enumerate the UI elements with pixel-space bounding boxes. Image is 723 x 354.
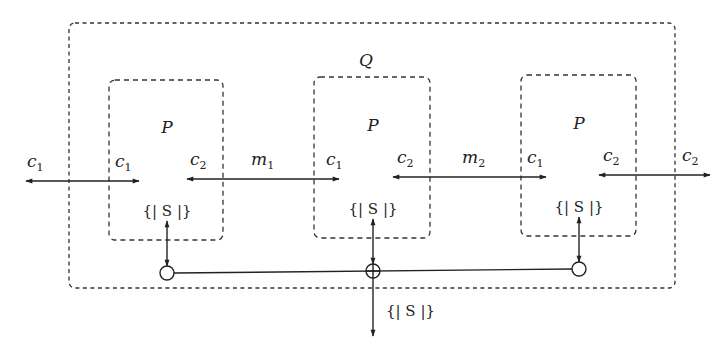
process-label-3: P [572,113,585,133]
p2-state-label: {| S |} [348,200,397,218]
p2-c2-label: c2 [397,147,414,170]
p1-c2-label: c2 [190,149,207,172]
process-label-1: P [160,117,173,137]
m2-label: m2 [462,147,485,170]
p3-c1-label: c1 [527,147,544,170]
process-diagram: Q P P P c1 c1 c2 m1 c1 c2 m2 c1 c2 c2 {|… [0,0,723,354]
p1-c1-label: c1 [115,151,132,174]
p3-c2-label: c2 [603,145,620,168]
process-label-2: P [366,115,379,135]
external-c1-label: c1 [27,151,44,174]
junction-circle-1 [160,266,174,280]
m1-label: m1 [251,149,274,172]
external-c2-label: c2 [682,145,699,168]
p1-state-label: {| S |} [142,202,191,220]
junction-circle-3 [572,262,586,276]
p3-state-label: {| S |} [554,198,603,216]
outer-process-label: Q [359,50,373,70]
p2-c1-label: c1 [326,149,343,172]
external-state-label: {| S |} [386,302,435,320]
